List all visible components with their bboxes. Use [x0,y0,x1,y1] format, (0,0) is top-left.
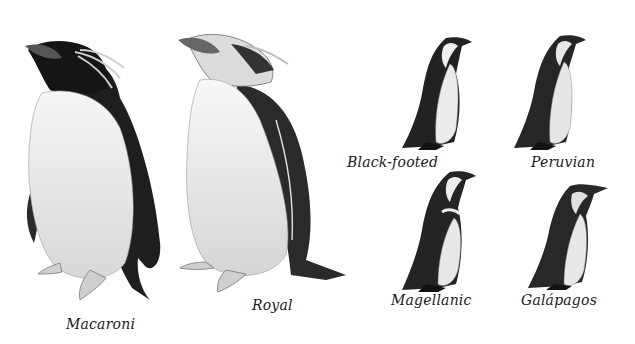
label-black-footed: Black-footed [347,154,438,170]
peruvian-penguin-drawing [508,32,588,152]
label-royal: Royal [252,297,293,313]
label-peruvian: Peruvian [531,154,595,170]
label-magellanic: Magellanic [391,292,472,308]
galapagos-penguin-drawing [522,180,612,292]
black-footed-penguin-drawing [396,34,476,152]
penguin-species-illustration: Macaroni Royal Black-footed Peruvian Mag… [0,0,635,344]
magellanic-penguin-drawing [396,168,478,292]
macaroni-penguin-drawing [20,38,170,313]
label-macaroni: Macaroni [66,316,135,332]
label-galapagos: Galápagos [521,292,597,308]
royal-penguin-drawing [176,30,351,300]
